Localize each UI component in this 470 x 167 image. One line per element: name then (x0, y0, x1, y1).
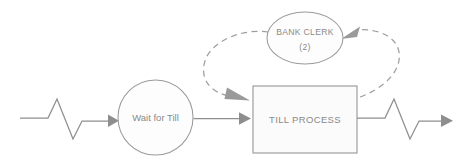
inflow-zigzag-connector (20, 99, 119, 139)
wait-to-till-arrow-head-icon (239, 112, 251, 124)
outflow-zigzag-path (357, 99, 442, 139)
outflow-arrow-head-icon (441, 115, 453, 128)
node-bank-clerk[interactable]: BANK CLERK (2) (267, 12, 343, 64)
diagram-canvas: Wait for Till BANK CLERK (2) TILL PROCES… (0, 0, 470, 167)
bank-clerk-ellipse[interactable] (267, 12, 343, 64)
bank-clerk-count-label: (2) (299, 42, 310, 52)
wait-to-till-connector (194, 112, 252, 124)
node-till-process[interactable]: TILL PROCESS (253, 86, 357, 153)
node-wait-for-till[interactable]: Wait for Till (118, 80, 193, 155)
till-process-label: TILL PROCESS (269, 114, 341, 125)
wait-for-till-label: Wait for Till (132, 112, 179, 123)
inflow-zigzag-path (20, 99, 108, 139)
till-to-clerk-arrow-head-icon (341, 27, 360, 40)
process-flow-diagram: Wait for Till BANK CLERK (2) TILL PROCES… (0, 0, 470, 167)
till-to-clerk-arc-path (356, 30, 399, 97)
clerk-to-till-arrow-head-icon (225, 88, 251, 101)
inflow-arrow-head-icon (108, 115, 119, 128)
outflow-zigzag-connector (357, 99, 453, 139)
bank-clerk-label: BANK CLERK (276, 27, 333, 37)
